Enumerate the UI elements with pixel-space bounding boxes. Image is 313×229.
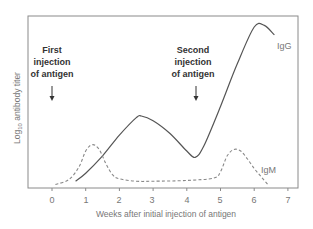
second-injection-line-3: of antigen [172, 69, 215, 79]
first-injection-annotation: First injection of antigen [31, 45, 74, 101]
x-tick-label-1: 1 [83, 195, 88, 205]
x-tick-label-6: 6 [251, 195, 256, 205]
second-injection-line-2: injection [174, 57, 211, 67]
y-axis-title-log: Log [12, 129, 22, 143]
x-tick-label-2: 2 [116, 195, 121, 205]
x-tick-label-4: 4 [184, 195, 189, 205]
igg-series-line [76, 23, 275, 181]
first-injection-line-1: First [42, 45, 62, 55]
x-tick-label-0: 0 [49, 195, 54, 205]
igm-series-line [55, 145, 267, 185]
down-arrow-icon [50, 86, 55, 101]
igm-label: IgM [261, 165, 276, 175]
second-injection-annotation: Second injection of antigen [172, 45, 215, 101]
plot-frame [28, 16, 298, 188]
x-axis-title: Weeks after initial injection of antigen [96, 209, 236, 219]
first-injection-line-3: of antigen [31, 69, 74, 79]
x-tick-label-3: 3 [149, 195, 154, 205]
antibody-response-chart: 0 1 2 3 4 5 6 7 Weeks after initial inje… [0, 0, 313, 229]
x-axis-tick-labels: 0 1 2 3 4 5 6 7 [49, 195, 290, 205]
y-axis-title-rest: antibody titer [12, 72, 22, 123]
y-axis-title: Log10 antibody titer [12, 72, 23, 144]
first-injection-line-2: injection [33, 57, 70, 67]
igg-label: IgG [277, 41, 292, 51]
down-arrow-icon [194, 86, 199, 101]
second-injection-line-1: Second [177, 45, 210, 55]
x-tick-label-5: 5 [217, 195, 222, 205]
x-tick-label-7: 7 [285, 195, 290, 205]
